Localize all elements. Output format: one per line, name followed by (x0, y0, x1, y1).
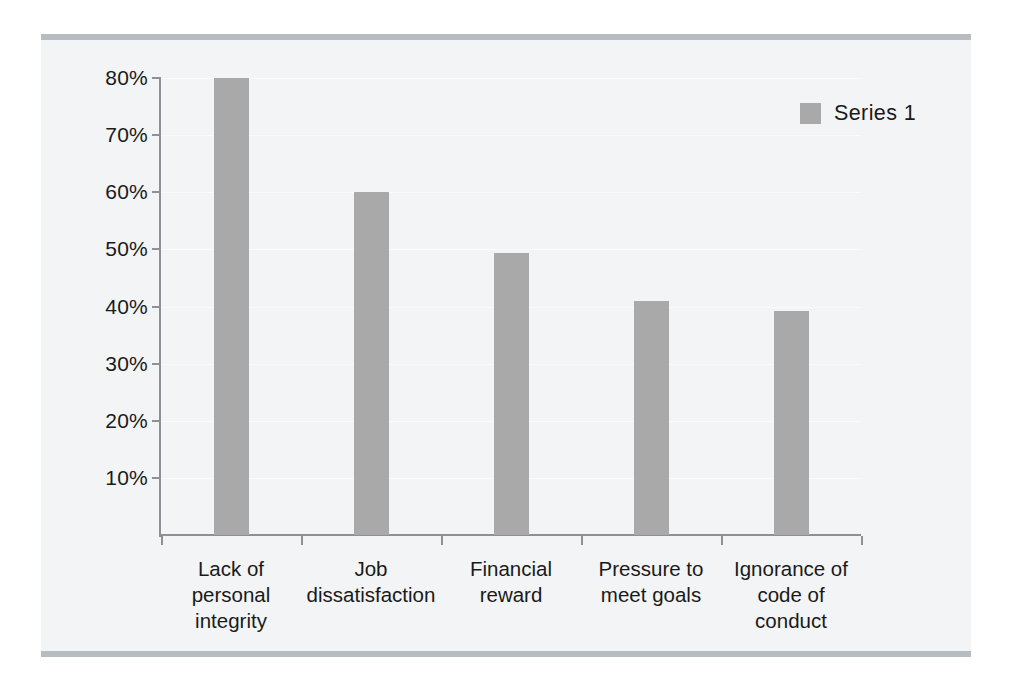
x-tick-4 (581, 536, 583, 545)
x-tick-3 (441, 536, 443, 545)
category-label-3: Financial reward (441, 556, 581, 608)
y-tick-70% (152, 134, 161, 136)
legend-swatch-series-1 (800, 103, 821, 124)
y-tick-80% (152, 77, 161, 79)
y-tick-label-50%: 50% (88, 237, 148, 261)
bottom-divider-rule (41, 651, 971, 657)
bar-4 (634, 301, 669, 535)
legend-label-series-1: Series 1 (834, 101, 916, 126)
y-tick-label-10%: 10% (88, 466, 148, 490)
y-tick-40% (152, 306, 161, 308)
category-label-1: Lack of personal integrity (161, 556, 301, 634)
y-tick-label-40%: 40% (88, 295, 148, 319)
category-label-4: Pressure to meet goals (581, 556, 721, 608)
y-tick-10% (152, 477, 161, 479)
bar-2 (354, 192, 389, 535)
x-tick-2 (301, 536, 303, 545)
category-label-2: Job dissatisfaction (301, 556, 441, 608)
y-tick-20% (152, 420, 161, 422)
y-tick-label-30%: 30% (88, 352, 148, 376)
bar-1 (214, 78, 249, 535)
y-tick-30% (152, 363, 161, 365)
y-tick-label-60%: 60% (88, 180, 148, 204)
y-tick-label-70%: 70% (88, 123, 148, 147)
y-tick-label-80%: 80% (88, 66, 148, 90)
bars (161, 78, 861, 535)
x-tick-end (861, 536, 863, 545)
x-tick-5 (721, 536, 723, 545)
y-tick-60% (152, 191, 161, 193)
y-tick-50% (152, 248, 161, 250)
bar-5 (774, 311, 809, 536)
x-tick-1 (161, 536, 163, 545)
y-tick-label-20%: 20% (88, 409, 148, 433)
bar-chart-figure: 10%20%30%40%50%60%70%80% Lack of persona… (0, 0, 1027, 693)
category-label-5: Ignorance of code of conduct (721, 556, 861, 634)
bar-3 (494, 253, 529, 535)
legend: Series 1 (800, 101, 916, 126)
